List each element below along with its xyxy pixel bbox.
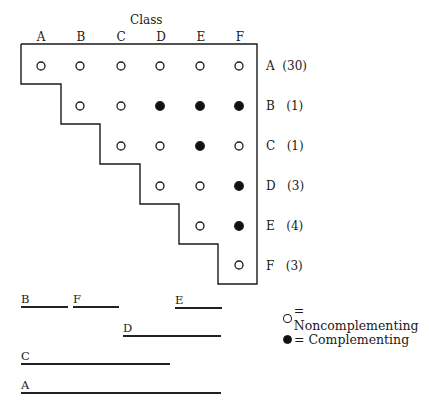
- row-label-f: F (3): [266, 260, 303, 272]
- filled-circle-icon: [196, 102, 205, 111]
- segment-label: D: [123, 322, 132, 334]
- filled-circle-icon: [235, 102, 244, 111]
- segment-label: F: [73, 293, 81, 305]
- open-circle-icon: [196, 62, 204, 70]
- row-count-b: (1): [286, 99, 303, 113]
- open-circle-icon: [156, 182, 164, 190]
- open-circle-icon: [117, 62, 125, 70]
- row-label-d: D (3): [266, 180, 304, 192]
- segment-label: C: [21, 350, 30, 362]
- open-circle-icon: [235, 62, 243, 70]
- open-circle-icon: [117, 142, 125, 150]
- segment-label: E: [175, 294, 183, 306]
- filled-circle-icon: [283, 335, 292, 344]
- row-label-e: E (4): [266, 220, 303, 232]
- deletion-segment: [123, 335, 221, 337]
- filled-circle-icon: [196, 142, 205, 151]
- deletion-segment: [73, 306, 119, 308]
- open-circle-icon: [76, 102, 84, 110]
- filled-circle-icon: [156, 102, 165, 111]
- segment-label: B: [21, 293, 29, 305]
- row-count-f: (3): [286, 259, 303, 273]
- deletion-segment: [21, 363, 170, 365]
- open-circle-icon: [117, 102, 125, 110]
- open-circle-icon: [37, 62, 45, 70]
- open-circle-icon: [156, 62, 164, 70]
- open-circle-icon: [235, 142, 243, 150]
- filled-circle-icon: [235, 182, 244, 191]
- open-circle-icon: [196, 182, 204, 190]
- row-label-a: A (30): [266, 60, 307, 72]
- row-label-c: C (1): [266, 140, 304, 152]
- row-count-d: (3): [287, 179, 304, 193]
- open-circle-icon: [196, 222, 204, 230]
- deletion-segment: [21, 392, 221, 394]
- row-count-a: (30): [282, 59, 307, 73]
- deletion-segment: [21, 306, 68, 308]
- filled-circle-icon: [235, 222, 244, 231]
- open-circle-icon: [283, 314, 292, 323]
- legend-noncomplementing: = Noncomplementing: [283, 303, 429, 333]
- row-count-c: (1): [287, 139, 304, 153]
- row-count-e: (4): [286, 219, 303, 233]
- open-circle-icon: [76, 62, 84, 70]
- legend-complementing: = Complementing: [283, 332, 409, 347]
- open-circle-icon: [156, 142, 164, 150]
- open-circle-icon: [235, 261, 243, 269]
- deletion-segment: [175, 307, 222, 309]
- row-label-b: B (1): [266, 100, 303, 112]
- segment-label: A: [21, 379, 29, 391]
